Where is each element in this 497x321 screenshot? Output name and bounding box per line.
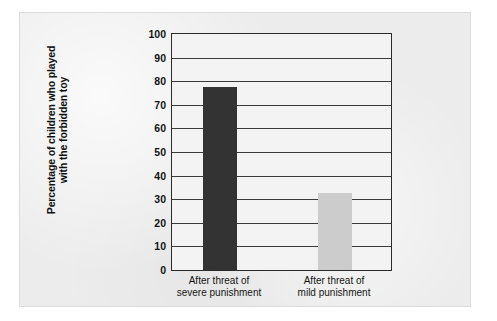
x-axis-label-mild: After threat of mild punishment	[269, 275, 399, 299]
y-tick-label-60: 60	[154, 122, 166, 134]
x-axis-label-severe-line-1: After threat of	[154, 275, 284, 287]
y-tick-label-20: 20	[154, 217, 166, 229]
x-axis-label-severe-line-2: severe punishment	[154, 287, 284, 299]
y-tick-label-90: 90	[154, 52, 166, 64]
x-axis-label-mild-line-2: mild punishment	[269, 287, 399, 299]
y-tick-label-40: 40	[154, 170, 166, 182]
y-tick-label-80: 80	[154, 75, 166, 87]
figure-panel: Percentage of children who played with t…	[20, 13, 470, 306]
y-tick-label-10: 10	[154, 240, 166, 252]
gridline-80	[172, 81, 391, 82]
y-tick-label-50: 50	[154, 146, 166, 158]
gridline-90	[172, 58, 391, 59]
bar-mild-punishment	[318, 193, 352, 270]
y-axis-title: Percentage of children who played with t…	[41, 30, 75, 230]
y-tick-label-100: 100	[148, 28, 166, 40]
bar-severe-punishment	[203, 87, 237, 270]
y-tick-label-30: 30	[154, 193, 166, 205]
plot-area: 1009080706050403020100	[171, 33, 392, 271]
x-axis-label-mild-line-1: After threat of	[269, 275, 399, 287]
x-axis-label-severe: After threat of severe punishment	[154, 275, 284, 299]
bar-chart: Percentage of children who played with t…	[20, 13, 470, 306]
y-tick-label-70: 70	[154, 99, 166, 111]
y-axis-title-line-2: with the forbidden toy	[58, 77, 70, 183]
